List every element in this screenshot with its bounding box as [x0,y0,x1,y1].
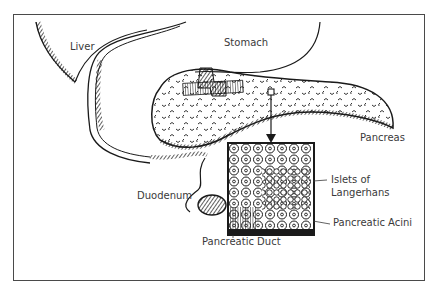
label-duodenum: Duodenum [137,190,192,202]
label-pancreatic-duct: Pancreatic Duct [202,236,281,248]
islets-leader [313,180,327,181]
microscopic-inset [228,143,314,235]
label-islets-line1: Islets of [331,174,370,186]
label-islets-line2: Langerhans [331,187,390,199]
label-pancreatic-acini: Pancreatic Acini [333,217,412,229]
pancreas-illustration [0,0,441,295]
label-liver: Liver [70,41,95,53]
label-pancreas: Pancreas [360,132,405,144]
acini-leader [313,221,330,224]
label-stomach: Stomach [224,37,268,49]
